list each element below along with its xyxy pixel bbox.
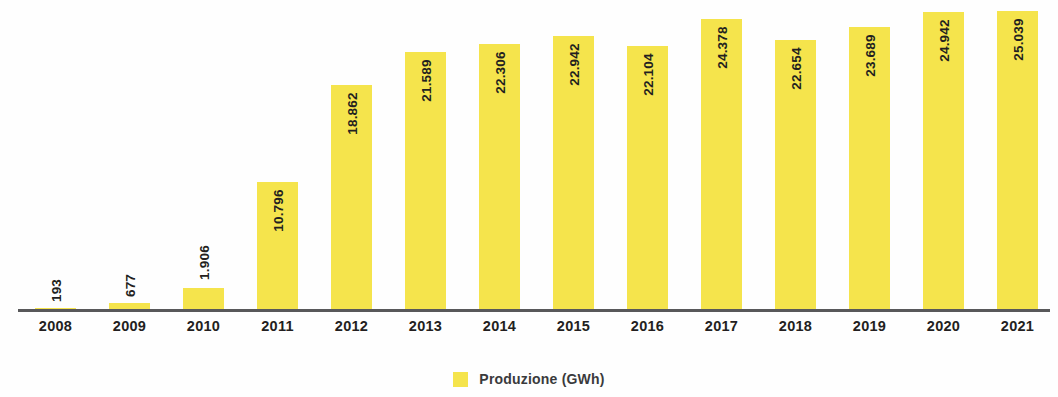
bar-value-label: 193 <box>48 279 63 302</box>
bar-value-label: 21.589 <box>418 59 433 102</box>
bar[interactable] <box>183 288 224 311</box>
x-axis-tick-label: 2010 <box>166 318 241 334</box>
bar-group: 21.589 <box>388 1 463 312</box>
x-axis-tick-label: 2009 <box>92 318 167 334</box>
chart-legend: Produzione (GWh) <box>0 366 1058 392</box>
bar-value-label: 22.654 <box>788 47 803 90</box>
x-axis-tick-label: 2019 <box>832 318 907 334</box>
bar-group: 22.654 <box>758 1 833 312</box>
x-axis-tick-label: 2020 <box>906 318 981 334</box>
bar-value-label: 23.689 <box>862 34 877 77</box>
bar-value-label: 24.378 <box>714 26 729 69</box>
x-axis-tick-label: 2008 <box>18 318 93 334</box>
bar-chart: 1936771.90610.79618.86221.58922.30622.94… <box>0 0 1058 397</box>
bar-group: 25.039 <box>980 1 1055 312</box>
bar-group: 24.942 <box>906 1 981 312</box>
x-axis-tick-label: 2014 <box>462 318 537 334</box>
bar-value-label: 18.862 <box>344 92 359 135</box>
bar-group: 22.306 <box>462 1 537 312</box>
bar-value-label: 24.942 <box>936 19 951 62</box>
bar-value-label: 22.104 <box>640 53 655 96</box>
bar-value-label: 22.942 <box>566 43 581 86</box>
x-axis-tick-label: 2011 <box>240 318 315 334</box>
bar-value-label: 25.039 <box>1010 18 1025 61</box>
x-axis-tick-label: 2018 <box>758 318 833 334</box>
bar-group: 22.942 <box>536 1 611 312</box>
bar-group: 10.796 <box>240 1 315 312</box>
x-axis-tick-labels: 2008200920102011201220132014201520162017… <box>0 318 1058 348</box>
x-axis-tick-label: 2017 <box>684 318 759 334</box>
bar-group: 23.689 <box>832 1 907 312</box>
bar-value-label: 677 <box>122 274 137 297</box>
x-axis-tick-label: 2013 <box>388 318 463 334</box>
bar-group: 677 <box>92 1 167 312</box>
bar-group: 1.906 <box>166 1 241 312</box>
bar-value-label: 10.796 <box>270 189 285 232</box>
bar-value-label: 1.906 <box>196 245 211 280</box>
legend-swatch-produzione <box>453 372 468 387</box>
bar-value-label: 22.306 <box>492 51 507 94</box>
bar-group: 193 <box>18 1 93 312</box>
bar-group: 22.104 <box>610 1 685 312</box>
x-axis-tick-label: 2016 <box>610 318 685 334</box>
x-axis-tick-label: 2012 <box>314 318 389 334</box>
x-axis-line <box>18 309 1050 312</box>
legend-label-produzione: Produzione (GWh) <box>479 371 604 387</box>
plot-area: 1936771.90610.79618.86221.58922.30622.94… <box>0 0 1058 312</box>
x-axis-tick-label: 2015 <box>536 318 611 334</box>
bar-group: 18.862 <box>314 1 389 312</box>
x-axis-tick-label: 2021 <box>980 318 1055 334</box>
bar-group: 24.378 <box>684 1 759 312</box>
